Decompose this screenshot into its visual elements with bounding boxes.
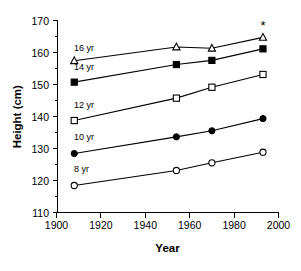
data-point-10-yr-1954 <box>173 134 179 140</box>
data-point-8-yr-1954 <box>173 167 179 173</box>
data-point-8-yr-1908 <box>71 182 77 188</box>
series-label-14yr: 14 yr <box>74 62 94 72</box>
series-label-12yr: 12 yr <box>74 100 94 110</box>
series-16-yr <box>71 34 267 64</box>
data-point-14-yr-1954 <box>173 61 179 67</box>
x-tick-label-1960: 1960 <box>178 219 202 231</box>
data-point-10-yr-1993 <box>260 116 266 122</box>
significance-star-annotation: * <box>260 18 265 33</box>
x-tick-label-1920: 1920 <box>89 219 113 231</box>
data-point-14-yr-1908 <box>71 79 77 85</box>
data-point-10-yr-1970 <box>209 128 215 134</box>
y-axis-ticks <box>53 21 58 213</box>
series-label-10yr: 10 yr <box>74 132 94 142</box>
y-tick-label-160: 160 <box>31 47 49 59</box>
data-point-12-yr-1993 <box>260 71 266 77</box>
data-point-12-yr-1908 <box>71 117 77 123</box>
chart-figure: 170 160 150 140 130 120 110 1900 1920 19… <box>0 0 301 271</box>
series-12-yr <box>71 71 266 123</box>
data-point-12-yr-1970 <box>209 84 215 90</box>
line-chart: 170 160 150 140 130 120 110 1900 1920 19… <box>0 0 301 271</box>
x-tick-label-1980: 1980 <box>222 219 246 231</box>
x-tick-label-1940: 1940 <box>134 219 158 231</box>
series-line-0 <box>74 37 263 60</box>
series-label-8yr: 8 yr <box>74 164 89 174</box>
x-tick-label-2000: 2000 <box>267 219 291 231</box>
x-axis-title: Year <box>155 242 180 254</box>
data-point-12-yr-1954 <box>173 95 179 101</box>
y-tick-label-130: 130 <box>31 143 49 155</box>
series-line-2 <box>74 74 263 120</box>
y-axis-title: Height (cm) <box>11 85 23 148</box>
data-point-14-yr-1970 <box>209 57 215 63</box>
data-point-8-yr-1993 <box>260 149 266 155</box>
series-layer <box>71 34 267 189</box>
series-line-3 <box>74 119 263 154</box>
series-14-yr <box>71 46 266 85</box>
data-point-16-yr-1993 <box>259 34 266 41</box>
series-10-yr <box>71 116 266 157</box>
series-label-16yr: 16 yr <box>74 43 94 53</box>
x-tick-label-1900: 1900 <box>45 219 69 231</box>
series-line-4 <box>74 152 263 185</box>
y-tick-label-120: 120 <box>31 175 49 187</box>
y-tick-label-110: 110 <box>32 207 49 219</box>
series-8-yr <box>71 149 266 188</box>
data-point-10-yr-1908 <box>71 150 77 156</box>
y-tick-label-140: 140 <box>31 111 49 123</box>
data-point-14-yr-1993 <box>260 46 266 52</box>
data-point-8-yr-1970 <box>209 160 215 166</box>
y-tick-label-150: 150 <box>31 79 49 91</box>
series-line-1 <box>74 49 263 82</box>
y-tick-label-170: 170 <box>31 15 49 27</box>
x-axis-ticks <box>57 213 279 218</box>
